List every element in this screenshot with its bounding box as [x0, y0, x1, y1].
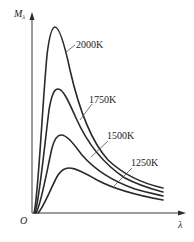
leader-2000k: [66, 45, 75, 52]
label-1750k: 1750K: [89, 94, 117, 105]
curves: [34, 27, 163, 213]
planck-blackbody-chart: Mλ λ O 2000K 1750K 1500K 1250K: [0, 0, 194, 242]
curve-1250k: [38, 168, 163, 213]
x-axis-arrow-icon: [178, 211, 186, 216]
label-1250k: 1250K: [131, 157, 159, 168]
origin-label: O: [20, 215, 27, 226]
leader-1250k: [114, 168, 132, 186]
curve-1500k: [36, 135, 163, 213]
label-1500k: 1500K: [107, 130, 135, 141]
y-axis-label: Mλ: [13, 8, 25, 20]
leader-lines: [66, 45, 132, 186]
x-axis-label: λ: [177, 219, 183, 230]
curve-1750k: [35, 89, 163, 213]
y-axis-arrow-icon: [30, 12, 35, 20]
label-2000k: 2000K: [76, 39, 104, 50]
